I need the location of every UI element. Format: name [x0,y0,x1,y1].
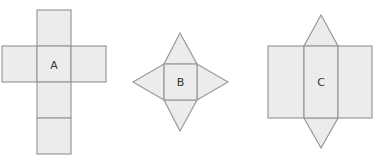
net-c-right-rectangle [338,46,372,118]
net-c-left-rectangle [268,46,304,118]
net-b: B [133,33,228,131]
net-a-bottom-square [37,118,71,154]
net-a-lower-square [37,82,71,118]
net-a-label: A [50,59,58,72]
net-c-bottom-triangle [304,118,338,148]
net-b-top-triangle [164,33,197,64]
net-b-bottom-triangle [164,100,197,131]
net-c-top-triangle [304,15,338,46]
net-b-left-triangle [133,64,164,100]
net-c: C [268,15,372,148]
net-b-right-triangle [197,64,228,100]
nets-diagram: A B C [0,0,375,156]
net-a-left-square [2,46,37,82]
net-a-right-square [71,46,106,82]
net-a-top-square [37,10,71,46]
net-c-label: C [317,76,325,89]
net-b-label: B [177,76,185,89]
net-a: A [2,10,106,154]
